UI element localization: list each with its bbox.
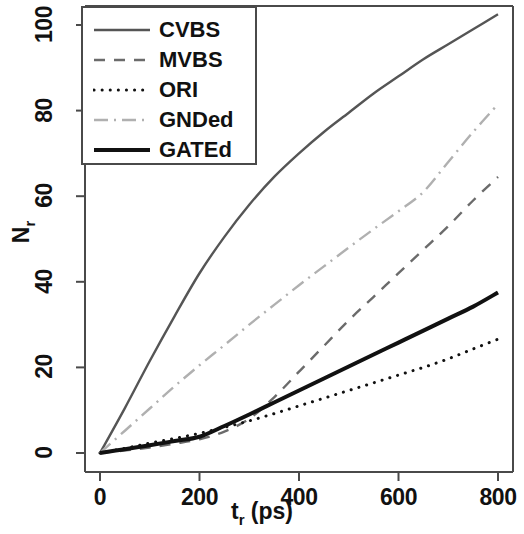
x-axis-ticks — [100, 472, 498, 481]
x-axis-title-unit: (ps) — [244, 498, 293, 524]
y-tick-label: 60 — [31, 172, 58, 220]
y-axis-title-main: N — [8, 227, 34, 244]
series-line-mvbs — [100, 177, 498, 453]
legend-label: ORI — [159, 79, 198, 101]
legend-item-mvbs: MVBS — [83, 44, 255, 75]
legend-label: GATEd — [159, 139, 232, 161]
x-tick-label: 200 — [181, 484, 218, 511]
legend-item-ori: ORI — [83, 74, 255, 105]
x-tick-label: 600 — [380, 484, 417, 511]
legend-key-gnded — [93, 111, 151, 129]
series-line-ori — [100, 339, 498, 453]
legend-label: MVBS — [159, 49, 223, 71]
legend-key-mvbs — [93, 51, 151, 69]
y-axis-title: Nr — [8, 221, 38, 243]
x-tick-label: 0 — [94, 484, 106, 511]
legend-item-cvbs: CVBS — [83, 14, 255, 45]
chart-figure: 020406080100 0200400600800 Nr tr (ps) CV… — [0, 0, 524, 534]
y-tick-label: 80 — [31, 86, 58, 134]
x-tick-label: 800 — [480, 484, 517, 511]
y-axis-title-sub: r — [21, 221, 38, 227]
y-tick-label: 40 — [31, 257, 58, 305]
plot-canvas — [0, 0, 524, 534]
x-axis-title: tr (ps) — [231, 498, 293, 528]
legend-key-gated — [93, 141, 151, 159]
legend-label: CVBS — [159, 19, 220, 41]
x-axis-title-main: t — [231, 498, 239, 524]
legend-item-gated: GATEd — [83, 134, 255, 165]
y-tick-label: 20 — [31, 343, 58, 391]
chart-legend: CVBSMVBSORIGNDedGATEd — [81, 6, 257, 165]
y-tick-label: 0 — [31, 429, 58, 477]
legend-key-ori — [93, 81, 151, 99]
legend-key-cvbs — [93, 21, 151, 39]
legend-label: GNDed — [159, 109, 234, 131]
legend-item-gnded: GNDed — [83, 104, 255, 135]
y-tick-label: 100 — [31, 1, 58, 49]
